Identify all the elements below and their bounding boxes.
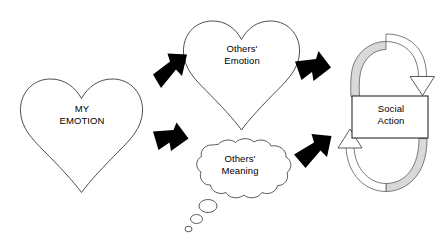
arrow-emotion-to-others-meaning bbox=[153, 123, 189, 152]
block-arrow-icon bbox=[153, 123, 189, 152]
diagram-canvas: MY EMOTION Others' Emotion Others' Meani… bbox=[0, 0, 448, 243]
loop-band-right bbox=[386, 139, 427, 192]
node-others-emotion bbox=[183, 21, 299, 130]
heart-shape-others-emotion bbox=[183, 21, 299, 130]
loop-band-left bbox=[351, 42, 386, 97]
arrow-others-emotion-to-social-action bbox=[295, 51, 331, 81]
block-arrow-icon bbox=[294, 134, 332, 168]
loop-arrowhead-top bbox=[410, 77, 435, 96]
thought-bubble-medium bbox=[191, 215, 203, 224]
thought-cloud-shape bbox=[197, 139, 291, 198]
node-social-action bbox=[352, 96, 428, 138]
loop-curve-bottom bbox=[346, 148, 386, 192]
arrow-emotion-to-others-emotion bbox=[153, 54, 187, 89]
heart-shape-my-emotion bbox=[20, 79, 142, 193]
diagram-graphics bbox=[0, 0, 448, 243]
loop-curve-top bbox=[386, 34, 427, 78]
node-others-meaning bbox=[185, 139, 291, 232]
thought-bubble-small bbox=[185, 226, 192, 232]
block-arrow-icon bbox=[153, 54, 187, 89]
arrow-others-meaning-to-social-action bbox=[294, 134, 332, 168]
block-arrow-icon bbox=[295, 51, 331, 81]
social-action-box bbox=[352, 96, 428, 138]
node-my-emotion bbox=[20, 79, 142, 193]
thought-bubble-large bbox=[199, 200, 217, 213]
